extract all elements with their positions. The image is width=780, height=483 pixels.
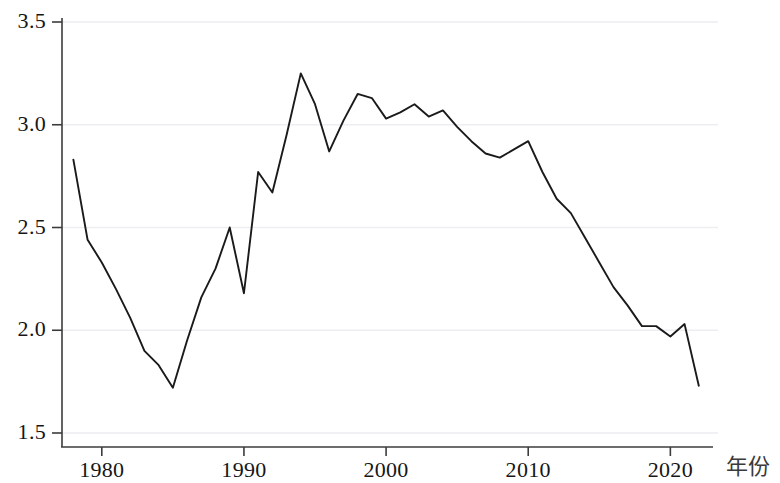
- x-axis-tick-label: 1990: [204, 459, 284, 481]
- y-axis-tick-label: 2.0: [0, 318, 46, 340]
- x-axis-tick-label: 1980: [62, 459, 142, 481]
- y-axis-tick-label: 3.5: [0, 10, 46, 32]
- x-axis-tick-label: 2020: [630, 459, 710, 481]
- line-chart-canvas: [0, 0, 780, 483]
- x-axis-tick-label: 2010: [488, 459, 568, 481]
- gridlines-group: [62, 22, 718, 433]
- chart-figure: 1.52.02.53.03.5 19801990200020102020 年份: [0, 0, 780, 483]
- data-series-line: [73, 73, 698, 387]
- axes-group: [61, 18, 713, 447]
- y-axis-ticks: [52, 22, 62, 433]
- y-axis-tick-label: 1.5: [0, 421, 46, 443]
- x-axis-ticks: [102, 447, 671, 456]
- x-axis-title: 年份: [726, 455, 770, 479]
- x-axis-tick-label: 2000: [346, 459, 426, 481]
- y-axis-tick-label: 2.5: [0, 216, 46, 238]
- y-axis-tick-label: 3.0: [0, 113, 46, 135]
